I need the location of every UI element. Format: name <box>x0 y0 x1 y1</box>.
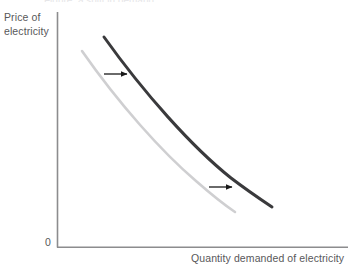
y-axis-label: Price of electricity <box>4 11 49 38</box>
plot-area <box>0 0 354 271</box>
y-axis-label-line1: Price of <box>4 11 49 25</box>
origin-tick-label: 0 <box>45 236 51 248</box>
y-axis-label-line2: electricity <box>4 25 49 39</box>
shifted-demand-curve <box>104 37 272 207</box>
original-demand-curve <box>82 51 235 212</box>
demand-curve-figure: Figure: a shift in demand Price of elect… <box>0 0 354 271</box>
x-axis-label: Quantity demanded of electricity <box>191 252 344 266</box>
